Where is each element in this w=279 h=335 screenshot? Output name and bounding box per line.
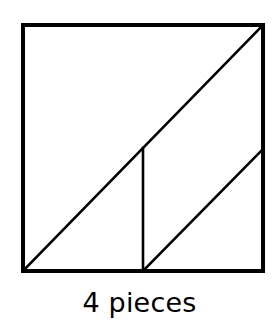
figure-stage: 4 pieces (0, 0, 279, 335)
caption-layer: 4 pieces (0, 286, 279, 320)
square-partition-diagram (0, 0, 279, 335)
piece-count-caption: 4 pieces (82, 286, 196, 320)
